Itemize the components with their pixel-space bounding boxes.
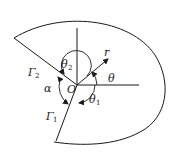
theta-label: θ	[108, 72, 115, 85]
gamma1-subscript: 1	[53, 116, 57, 124]
outer-arc-boundary	[14, 21, 165, 144]
theta2-label: θ	[61, 58, 68, 71]
theta1-subscript: 1	[96, 99, 100, 107]
theta2-subscript: 2	[68, 64, 72, 72]
theta-arc	[92, 72, 97, 85]
origin-label: O	[67, 83, 76, 96]
gamma2-subscript: 2	[35, 72, 39, 80]
alpha-arc-b	[58, 77, 60, 80]
sector-domain-diagram: O r θ θ 2 θ 1 α Γ 2 Γ 1	[0, 0, 177, 157]
diagram-svg: O r θ θ 2 θ 1 α Γ 2 Γ 1	[0, 0, 177, 157]
radius-label: r	[104, 46, 110, 59]
theta1-label: θ	[89, 93, 96, 106]
alpha-label: α	[44, 82, 52, 95]
